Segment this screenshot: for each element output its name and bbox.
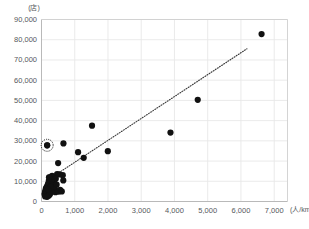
data-point — [46, 174, 52, 180]
x-tick-label: 1,000 — [65, 206, 84, 215]
x-tick-label: 5,000 — [198, 206, 217, 215]
y-axis-unit-label: (店) — [28, 3, 40, 12]
x-tick-label: 6,000 — [232, 206, 251, 215]
y-tick-label: 40,000 — [14, 116, 37, 125]
y-tick-label: 0 — [33, 197, 37, 206]
plot-frame — [42, 20, 288, 202]
data-point — [54, 182, 60, 188]
data-point — [45, 186, 51, 192]
y-axis-tick-labels: 010,00020,00030,00040,00050,00060,00070,… — [14, 15, 37, 206]
data-point — [55, 160, 61, 166]
scatter-chart: 010,00020,00030,00040,00050,00060,00070,… — [0, 0, 309, 229]
y-tick-label: 20,000 — [14, 157, 37, 166]
x-tick-label: 2,000 — [99, 206, 118, 215]
x-axis-tick-labels: 01,0002,0003,0004,0005,0006,0007,000 — [39, 206, 283, 215]
data-point — [105, 148, 111, 154]
chart-canvas: 010,00020,00030,00040,00050,00060,00070,… — [0, 0, 309, 229]
data-point — [167, 129, 173, 135]
y-tick-label: 60,000 — [14, 76, 37, 85]
y-tick-label: 50,000 — [14, 96, 37, 105]
data-point — [59, 188, 65, 194]
y-tick-label: 90,000 — [14, 15, 37, 24]
gridlines — [42, 20, 288, 202]
y-tick-label: 70,000 — [14, 55, 37, 64]
data-point — [60, 140, 66, 146]
data-point — [89, 123, 95, 129]
x-tick-label: 4,000 — [165, 206, 184, 215]
data-point — [60, 177, 66, 183]
x-tick-label: 7,000 — [265, 206, 284, 215]
data-point — [258, 31, 264, 37]
data-point — [81, 155, 87, 161]
highlighted-data-point — [44, 142, 50, 148]
trend-line — [50, 49, 246, 178]
y-tick-label: 10,000 — [14, 177, 37, 186]
data-point — [195, 97, 201, 103]
x-tick-label: 3,000 — [132, 206, 151, 215]
y-tick-label: 80,000 — [14, 35, 37, 44]
x-axis-unit-label: (人/km²) — [290, 206, 309, 214]
data-point — [75, 149, 81, 155]
x-tick-label: 0 — [39, 206, 43, 215]
y-tick-label: 30,000 — [14, 136, 37, 145]
